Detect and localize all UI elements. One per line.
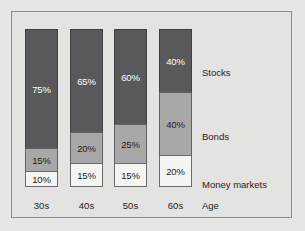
stacked-bar-50s[interactable]: 60% 25% 15% xyxy=(114,29,147,189)
segment-money-markets-60s[interactable]: 20% xyxy=(159,155,192,187)
stacked-bar-60s[interactable]: 40% 40% 20% xyxy=(159,29,192,189)
segment-value-label: 40% xyxy=(166,119,184,130)
segment-bonds-30s[interactable]: 15% xyxy=(25,148,58,172)
segment-value-label: 15% xyxy=(77,170,95,181)
segment-value-label: 20% xyxy=(77,143,95,154)
plot-area: 75% 15% 10% 65% 20% 15% 60% xyxy=(12,12,291,217)
segment-value-label: 15% xyxy=(121,170,139,181)
segment-value-label: 40% xyxy=(166,56,184,67)
segment-value-label: 20% xyxy=(166,166,184,177)
segment-stocks-40s[interactable]: 65% xyxy=(70,29,103,133)
segment-money-markets-50s[interactable]: 15% xyxy=(114,163,147,187)
x-tick-40s: 40s xyxy=(70,200,103,211)
segment-stocks-30s[interactable]: 75% xyxy=(25,29,58,149)
segment-stocks-60s[interactable]: 40% xyxy=(159,29,192,93)
segment-bonds-40s[interactable]: 20% xyxy=(70,132,103,164)
x-axis-title: Age xyxy=(202,200,219,211)
x-tick-50s: 50s xyxy=(114,200,147,211)
segment-value-label: 25% xyxy=(121,139,139,150)
segment-money-markets-30s[interactable]: 10% xyxy=(25,171,58,187)
stacked-bar-40s[interactable]: 65% 20% 15% xyxy=(70,29,103,189)
chart-frame: 75% 15% 10% 65% 20% 15% 60% xyxy=(11,11,292,218)
segment-value-label: 65% xyxy=(77,76,95,87)
series-label-bonds: Bonds xyxy=(202,131,229,142)
segment-value-label: 10% xyxy=(32,174,50,185)
segment-bonds-50s[interactable]: 25% xyxy=(114,124,147,164)
x-tick-30s: 30s xyxy=(25,200,58,211)
x-tick-60s: 60s xyxy=(159,200,192,211)
segment-money-markets-40s[interactable]: 15% xyxy=(70,163,103,187)
segment-value-label: 75% xyxy=(32,84,50,95)
segment-stocks-50s[interactable]: 60% xyxy=(114,29,147,125)
segment-value-label: 15% xyxy=(32,155,50,166)
stacked-bar-30s[interactable]: 75% 15% 10% xyxy=(25,29,58,189)
segment-bonds-60s[interactable]: 40% xyxy=(159,92,192,156)
series-label-stocks: Stocks xyxy=(202,67,231,78)
segment-value-label: 60% xyxy=(121,72,139,83)
series-label-money-markets: Money markets xyxy=(202,179,267,190)
